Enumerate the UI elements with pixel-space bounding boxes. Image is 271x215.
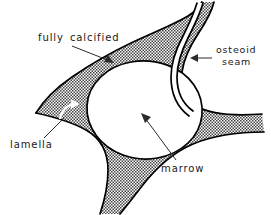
label-fully-calcified: fully calcified xyxy=(38,32,120,43)
label-marrow: marrow xyxy=(161,163,204,174)
label-osteoid-seam-line2: seam xyxy=(222,56,251,67)
label-lamella: lamella xyxy=(10,139,53,150)
label-osteoid-seam-line1: osteoid xyxy=(216,44,256,55)
bone-histology-diagram: fully calcified osteoid seam lamella mar… xyxy=(0,0,271,215)
